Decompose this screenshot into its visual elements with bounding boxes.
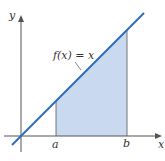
tick-a-label: a <box>52 138 59 151</box>
x-axis-label: x <box>158 138 164 151</box>
area-under-line-diagram: f(x) = x y x a b <box>0 0 165 161</box>
function-label: f(x) = x <box>53 49 94 62</box>
tick-b-label: b <box>123 137 130 150</box>
diagram-graphic <box>0 0 165 161</box>
y-axis-label: y <box>9 9 15 22</box>
label-pointer <box>75 62 81 70</box>
shaded-region <box>56 30 127 136</box>
y-axis-arrow-icon <box>18 15 24 22</box>
